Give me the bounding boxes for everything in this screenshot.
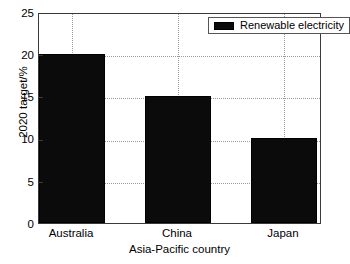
- legend-label-renewable-electricity: Renewable electricity: [240, 20, 344, 31]
- plot-area: [38, 13, 321, 224]
- y-tick-mark-15: [38, 97, 43, 98]
- y-tick-label-5: 5: [2, 177, 34, 189]
- x-tick-label-australia: Australia: [41, 227, 101, 239]
- x-tick-label-china: China: [147, 227, 207, 239]
- y-tick-mark-10: [38, 140, 43, 141]
- y-axis-title: 2020 target/%: [17, 27, 29, 177]
- bar-japan: [251, 138, 317, 223]
- x-axis-title: Asia-Pacific country: [38, 243, 321, 255]
- bar-australia: [39, 54, 105, 223]
- x-tick-label-japan: Japan: [253, 227, 313, 239]
- y-tick-mark-5: [38, 182, 43, 183]
- legend: Renewable electricity: [208, 17, 350, 34]
- legend-swatch-renewable-electricity: [214, 22, 234, 30]
- y-tick-label-25: 25: [2, 8, 34, 20]
- y-tick-label-0: 0: [2, 219, 34, 231]
- y-tick-mark-20: [38, 55, 43, 56]
- bar-china: [145, 96, 211, 223]
